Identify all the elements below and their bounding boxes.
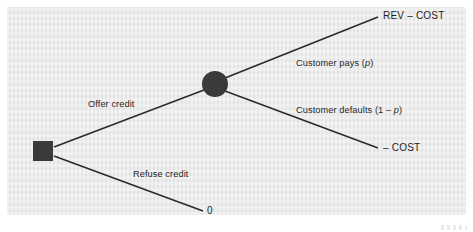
chance-node-circle[interactable] — [202, 71, 228, 97]
customer-pays-suffix: ) — [370, 58, 373, 68]
decision-node-square[interactable] — [33, 141, 53, 161]
terminal-label-zero: 0 — [207, 206, 213, 216]
branch-label-refuse-credit: Refuse credit — [133, 170, 188, 179]
decision-tree-graphic — [0, 0, 473, 232]
scan-artifact — [441, 225, 467, 230]
branch-label-offer-credit: Offer credit — [88, 100, 134, 109]
customer-defaults-suffix: ) — [399, 105, 402, 115]
branch-label-customer-defaults: Customer defaults (1 – p) — [296, 106, 402, 115]
diagram-canvas: Offer credit Refuse credit Customer pays… — [0, 0, 473, 232]
branch-line-customer-pays — [225, 17, 378, 78]
branch-line-refuse-credit — [54, 156, 203, 211]
terminal-label-minus-cost: – COST — [383, 143, 420, 153]
customer-pays-prefix: Customer pays ( — [296, 58, 365, 68]
branch-line-customer-defaults — [225, 91, 378, 148]
terminal-label-rev-minus-cost: REV – COST — [383, 11, 444, 21]
branch-label-customer-pays: Customer pays (p) — [296, 59, 373, 68]
customer-defaults-prefix: Customer defaults (1 – — [296, 105, 394, 115]
